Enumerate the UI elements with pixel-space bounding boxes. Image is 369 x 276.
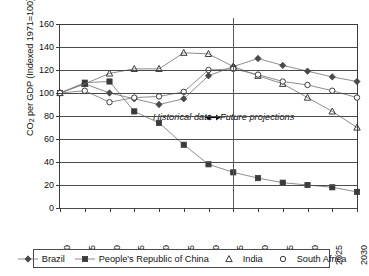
x-tickmark-2020 xyxy=(308,208,309,212)
legend-label: India xyxy=(243,254,263,264)
legend-label: Brazil xyxy=(42,254,65,264)
y-tick-label-100: 100 xyxy=(24,89,54,98)
data-point-marker xyxy=(255,55,261,61)
x-tick-label-2030: 2030 xyxy=(360,245,369,265)
y-tickmark-120 xyxy=(56,70,60,71)
y-tick-label-0: 0 xyxy=(24,204,54,213)
gridline-20 xyxy=(60,185,357,186)
y-axis-tick-labels: 020406080100120140160 xyxy=(24,18,54,208)
historical-data-annotation: Historical data xyxy=(153,112,212,122)
y-tickmark-140 xyxy=(56,47,60,48)
data-point-marker xyxy=(132,109,137,114)
gridline-80 xyxy=(60,116,357,117)
x-tickmark-1985 xyxy=(134,208,135,212)
series-line xyxy=(60,82,357,192)
series-south-africa xyxy=(57,66,359,105)
x-tickmark-2000 xyxy=(209,208,210,212)
x-tickmark-1980 xyxy=(110,208,111,212)
data-point-marker xyxy=(305,82,310,87)
gridline-160 xyxy=(60,24,357,25)
legend-item-brazil[interactable]: Brazil xyxy=(17,254,65,264)
data-point-marker xyxy=(329,74,335,80)
legend-item-people-s-republic-of-china[interactable]: People's Republic of China xyxy=(74,254,209,264)
x-tickmark-2030 xyxy=(357,208,358,212)
data-point-marker xyxy=(255,72,260,77)
gridline-40 xyxy=(60,162,357,163)
data-point-marker xyxy=(354,95,359,100)
gridline-120 xyxy=(60,70,357,71)
y-tickmark-60 xyxy=(56,139,60,140)
y-tickmark-20 xyxy=(56,185,60,186)
y-tickmark-160 xyxy=(56,24,60,25)
x-tickmark-1995 xyxy=(184,208,185,212)
y-tick-label-20: 20 xyxy=(24,181,54,190)
chart-legend: BrazilPeople's Republic of ChinaIndiaSou… xyxy=(33,249,330,268)
y-tickmark-100 xyxy=(56,93,60,94)
y-tick-label-120: 120 xyxy=(24,66,54,75)
legend-label: South Africa xyxy=(297,254,347,264)
historical-future-divider xyxy=(233,18,234,208)
data-point-marker xyxy=(280,62,286,68)
future-projections-annotation: Future projections xyxy=(220,112,294,122)
data-point-marker xyxy=(354,78,360,84)
data-point-marker xyxy=(305,68,311,74)
data-point-marker xyxy=(132,95,137,100)
legend-marker-diamond-icon xyxy=(17,254,39,264)
double-arrow-icon xyxy=(205,112,221,123)
data-point-marker xyxy=(280,79,285,84)
data-point-marker xyxy=(107,100,112,105)
y-tick-label-140: 140 xyxy=(24,43,54,52)
y-tickmark-80 xyxy=(56,116,60,117)
x-tickmark-1970 xyxy=(60,208,61,212)
plot-inner: Historical data Future projections xyxy=(60,24,357,208)
data-point-marker xyxy=(255,176,260,181)
x-tickmark-1975 xyxy=(85,208,86,212)
data-point-marker xyxy=(107,79,112,84)
x-tickmark-2015 xyxy=(283,208,284,212)
data-point-marker xyxy=(156,94,161,99)
legend-marker-circle-icon xyxy=(272,254,294,264)
legend-marker-triangle-icon xyxy=(218,254,240,264)
y-tick-label-60: 60 xyxy=(24,135,54,144)
y-tick-label-160: 160 xyxy=(24,20,54,29)
gridline-100 xyxy=(60,93,357,94)
gridline-60 xyxy=(60,139,357,140)
data-point-marker xyxy=(181,142,186,147)
x-tickmark-2025 xyxy=(332,208,333,212)
y-tickmark-40 xyxy=(56,162,60,163)
plot-area: Historical data Future projections xyxy=(59,24,358,209)
legend-item-india[interactable]: India xyxy=(218,254,263,264)
x-tickmark-1990 xyxy=(159,208,160,212)
legend-label: People's Republic of China xyxy=(99,254,209,264)
x-tickmark-2010 xyxy=(258,208,259,212)
x-axis-tick-labels: 1970197519801985199019952000200520102015… xyxy=(59,213,356,247)
data-point-marker xyxy=(354,189,359,194)
legend-marker-square-icon xyxy=(74,254,96,264)
series-people-s-republic-of-china xyxy=(57,79,359,195)
y-tick-label-80: 80 xyxy=(24,112,54,121)
x-tickmark-2005 xyxy=(233,208,234,212)
data-point-marker xyxy=(156,101,162,107)
legend-item-south-africa[interactable]: South Africa xyxy=(272,254,347,264)
y-tick-label-40: 40 xyxy=(24,158,54,167)
gridline-140 xyxy=(60,47,357,48)
